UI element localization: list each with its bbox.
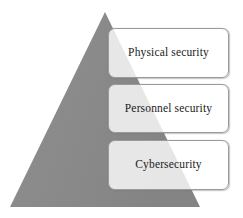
pyramid-layer-physical-security[interactable]: Physical security [108, 28, 229, 78]
pyramid-layer-label-personnel-security: Personnel security [125, 102, 212, 115]
pyramid-layer-label-physical-security: Physical security [128, 46, 209, 59]
pyramid-layer-cybersecurity[interactable]: Cybersecurity [108, 140, 229, 190]
pyramid-layer-label-cybersecurity: Cybersecurity [135, 158, 201, 171]
security-pyramid-diagram: Physical security Personnel security Cyb… [0, 0, 243, 218]
pyramid-layer-personnel-security[interactable]: Personnel security [108, 84, 229, 133]
